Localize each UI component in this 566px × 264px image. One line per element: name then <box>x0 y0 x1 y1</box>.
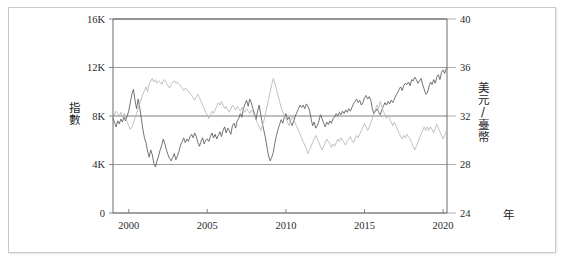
right-axis-title-char: 幣 <box>475 131 491 143</box>
right-axis-title-char: / <box>475 106 491 118</box>
left-tick-label: 8K <box>92 111 105 122</box>
right-axis-tick-labels: 2428323640 <box>460 14 471 219</box>
series-group <box>113 69 446 167</box>
right-tick-label: 32 <box>460 111 471 122</box>
right-axis-title-char: 臺 <box>475 119 491 131</box>
left-tick-label: 12K <box>87 62 106 73</box>
right-axis-title: 美元/臺幣 <box>475 82 491 143</box>
x-tick-label: 2020 <box>433 220 454 231</box>
x-axis-tick-labels: 20002005201020152020 <box>118 220 453 231</box>
x-axis-ticks <box>129 209 443 213</box>
series-line-left <box>113 69 446 167</box>
right-tick-label: 36 <box>460 62 471 73</box>
x-tick-label: 2000 <box>118 220 139 231</box>
x-axis-title: 年 <box>503 206 514 222</box>
x-tick-label: 2015 <box>354 220 375 231</box>
left-tick-label: 4K <box>92 159 105 170</box>
left-tick-label: 16K <box>87 14 106 25</box>
left-tick-label: 0 <box>100 208 105 219</box>
x-tick-label: 2010 <box>275 220 296 231</box>
right-tick-label: 24 <box>460 208 471 219</box>
x-tick-label: 2005 <box>197 220 218 231</box>
left-axis-tick-labels: 04K8K12K16K <box>87 14 106 219</box>
left-axis-title: 指數 <box>66 102 82 126</box>
left-axis-title-char: 數 <box>66 114 82 126</box>
right-tick-label: 28 <box>460 159 471 170</box>
right-tick-label: 40 <box>460 14 471 25</box>
chart-card: 04K8K12K16K 2428323640 20002005201020152… <box>8 7 556 253</box>
